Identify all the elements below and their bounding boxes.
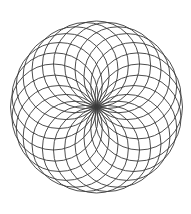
rosette-circles: [11, 21, 183, 193]
rosette-diagram: [0, 0, 191, 214]
